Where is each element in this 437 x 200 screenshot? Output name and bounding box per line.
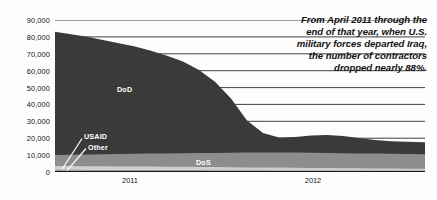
y-tick-80000: 80,000 [4,32,50,41]
annotation-line-4: the number of contractors [222,50,427,62]
callout-label-other: Other [88,143,108,152]
y-tick-20000: 20,000 [4,134,50,143]
annotation-line-5: dropped nearly 88%. [222,62,427,74]
y-tick-70000: 70,000 [4,49,50,58]
x-tick-2012: 2012 [305,176,321,185]
series-label-dos: DoS [196,158,211,167]
y-tick-30000: 30,000 [4,117,50,126]
contractor-area-chart: 90,000 80,000 70,000 60,000 50,000 40,00… [0,0,437,200]
y-tick-60000: 60,000 [4,66,50,75]
y-axis: 90,000 80,000 70,000 60,000 50,000 40,00… [0,0,50,200]
annotation-line-1: From April 2011 through the [222,14,427,26]
annotation-text: From April 2011 through the end of that … [222,14,427,74]
y-tick-90000: 90,000 [4,16,50,25]
annotation-line-3: military forces departed Iraq, [222,38,427,50]
callout-label-usaid: USAID [84,132,107,141]
y-tick-10000: 10,000 [4,151,50,160]
y-tick-40000: 40,000 [4,100,50,109]
x-tick-2011: 2011 [122,176,138,185]
series-label-dod: DoD [117,85,132,94]
y-tick-0: 0 [4,168,50,177]
annotation-line-2: end of that year, when U.S. [222,26,427,38]
y-tick-50000: 50,000 [4,83,50,92]
